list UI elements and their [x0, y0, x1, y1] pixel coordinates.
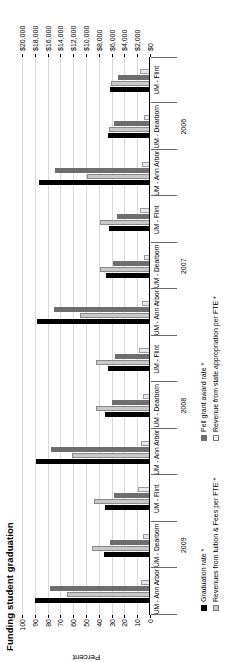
- dollar-tick-label: $20,000: [19, 26, 26, 51]
- dollar-tick-label: $10,000: [83, 26, 90, 51]
- dollar-tick-label: $14,000: [57, 26, 64, 51]
- percent-tick-label: 100: [19, 619, 26, 631]
- category-label: UM - Flint: [151, 57, 181, 104]
- bar-group: [22, 429, 150, 476]
- bar: [87, 174, 150, 179]
- percent-tick-label: 80: [44, 619, 51, 627]
- bar-group: [22, 104, 150, 151]
- bar: [54, 307, 150, 312]
- bar: [50, 586, 150, 591]
- percent-tick: [124, 615, 125, 618]
- year-label: 2007: [180, 197, 187, 337]
- category-divider: [151, 196, 177, 197]
- category-label-text: UM - Dearborn: [153, 384, 160, 428]
- bar: [110, 540, 150, 545]
- percent-tick: [60, 615, 61, 618]
- bar: [36, 459, 150, 464]
- category-divider: [151, 614, 177, 615]
- dollar-tick-label: $12,000: [70, 26, 77, 51]
- category-label-text: UM - Flint: [153, 66, 160, 95]
- bar-group: [22, 150, 150, 197]
- legend-item: Pell grant award rate *: [200, 241, 208, 441]
- bar: [94, 499, 150, 504]
- category-label-text: UM - Ann Arbor: [153, 430, 160, 475]
- legend-swatch-icon: [213, 435, 219, 441]
- percent-tick-label: 10: [134, 619, 141, 627]
- bar: [111, 81, 150, 86]
- bar: [110, 87, 150, 92]
- percent-tick: [86, 615, 87, 618]
- dollar-tick-label: $8,000: [95, 30, 102, 51]
- percent-tick-label: 50: [83, 619, 90, 627]
- category-divider: [151, 335, 177, 336]
- category-label-text: UM - Ann Arbor: [153, 290, 160, 335]
- category-label: UM - Ann Arbor: [151, 429, 181, 476]
- bar: [100, 267, 150, 272]
- legend-item: Revenues from tuition & Fees per FTE *: [212, 441, 220, 611]
- bar: [114, 121, 150, 126]
- bar: [108, 133, 150, 138]
- category-divider: [151, 521, 177, 522]
- bar-group: [22, 243, 150, 290]
- bar: [109, 226, 150, 231]
- bar: [80, 313, 150, 318]
- category-label: UM - Flint: [151, 336, 181, 383]
- percent-tick: [137, 615, 138, 618]
- category-label: UM - Flint: [151, 476, 181, 523]
- dollar-tick: [48, 54, 49, 57]
- bar: [37, 319, 150, 324]
- legend-swatch-icon: [201, 605, 207, 611]
- bar: [55, 168, 150, 173]
- legend-item: Graduation rate *: [200, 441, 208, 611]
- dollar-tick-label: $16,000: [44, 26, 51, 51]
- percent-tick-label: 30: [108, 619, 115, 627]
- bar: [96, 360, 150, 365]
- category-axis-line: [149, 57, 150, 615]
- category-divider: [151, 382, 177, 383]
- legend-swatch-icon: [213, 605, 219, 611]
- percent-tick-label: 70: [57, 619, 64, 627]
- category-divider: [151, 568, 177, 569]
- category-label-text: UM - Ann Arbor: [153, 151, 160, 196]
- bar: [104, 552, 150, 557]
- bar-group: [22, 57, 150, 104]
- bar: [96, 406, 150, 411]
- bar-group: [22, 476, 150, 523]
- percent-tick: [150, 615, 151, 618]
- bar-groups: [22, 57, 150, 615]
- category-label-text: UM - Flint: [153, 205, 160, 234]
- category-divider: [151, 103, 177, 104]
- bar: [115, 354, 150, 359]
- percent-tick: [112, 615, 113, 618]
- dollar-tick: [86, 54, 87, 57]
- plot-area: [22, 57, 150, 615]
- bar: [105, 412, 150, 417]
- bar: [109, 127, 150, 132]
- percent-tick: [48, 615, 49, 618]
- dollar-tick: [35, 54, 36, 57]
- bar-group: [22, 569, 150, 616]
- dollar-tick: [112, 54, 113, 57]
- category-label: UM - Ann Arbor: [151, 290, 181, 337]
- bar-group: [22, 522, 150, 569]
- page-title: Funding student graduation: [4, 522, 15, 651]
- legend-label: Graduation rate *: [200, 549, 208, 602]
- percent-tick: [73, 615, 74, 618]
- bar: [67, 592, 150, 597]
- category-label: UM - Dearborn: [151, 104, 181, 151]
- bar: [112, 400, 150, 405]
- category-divider: [151, 428, 177, 429]
- legend-column-left: Graduation rate *Revenues from tuition &…: [200, 441, 240, 611]
- bar: [51, 447, 150, 452]
- dollar-tick-label: $6,000: [108, 30, 115, 51]
- bar: [100, 220, 150, 225]
- category-label: UM - Flint: [151, 197, 181, 244]
- category-label: UM - Dearborn: [151, 383, 181, 430]
- dollar-axis: $0$2,000$4,000$6,000$8,000$10,000$12,000…: [22, 0, 150, 57]
- category-label-text: UM - Dearborn: [153, 105, 160, 149]
- category-label: UM - Ann Arbor: [151, 150, 181, 197]
- bar: [105, 505, 150, 510]
- percent-tick-label: 60: [70, 619, 77, 627]
